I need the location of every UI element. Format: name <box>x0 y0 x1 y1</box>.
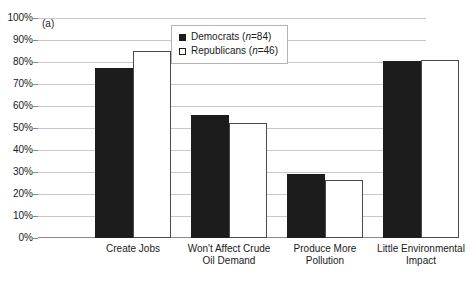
y-tick-label: 90% <box>13 35 33 45</box>
y-tick-label: 100% <box>7 13 33 23</box>
y-axis: 0%10%20%30%40%50%60%70%80%90%100% <box>0 0 36 282</box>
y-tick-label: 30% <box>13 167 33 177</box>
y-tick-label: 0% <box>19 233 33 243</box>
bar-republicans-2 <box>229 123 267 239</box>
bar-group <box>95 18 171 238</box>
legend-swatch-filled-icon <box>179 34 186 41</box>
bar-democrats-3 <box>287 174 325 238</box>
y-tick-label: 50% <box>13 123 33 133</box>
x-axis: Create JobsWon't Affect CrudeOil DemandP… <box>38 243 426 281</box>
x-category-label-line: Impact <box>346 255 469 267</box>
y-tick-label: 40% <box>13 145 33 155</box>
bar-republicans-1 <box>133 51 171 238</box>
y-tick-mark <box>33 238 38 239</box>
bar-democrats-2 <box>191 115 229 238</box>
legend-entry-republicans: Republicans (n=46) <box>179 44 278 58</box>
bar-republicans-3 <box>325 180 363 238</box>
legend-swatch-open-icon <box>179 48 186 55</box>
bar-group <box>383 18 459 238</box>
legend-label: Democrats (n=84) <box>191 30 271 44</box>
legend-entry-democrats: Democrats (n=84) <box>179 30 278 44</box>
legend-label: Republicans (n=46) <box>191 44 278 58</box>
y-tick-label: 20% <box>13 189 33 199</box>
y-tick-label: 80% <box>13 57 33 67</box>
bar-group <box>287 18 363 238</box>
bar-democrats-4 <box>383 61 421 238</box>
y-tick-label: 60% <box>13 101 33 111</box>
bar-democrats-1 <box>95 68 133 239</box>
y-tick-label: 10% <box>13 211 33 221</box>
y-tick-label: 70% <box>13 79 33 89</box>
x-category-label-line: Little Environmental <box>346 243 469 255</box>
bar-republicans-4 <box>421 60 459 238</box>
legend: Democrats (n=84)Republicans (n=46) <box>171 25 288 64</box>
x-category-label-4: Little EnvironmentalImpact <box>346 243 469 267</box>
